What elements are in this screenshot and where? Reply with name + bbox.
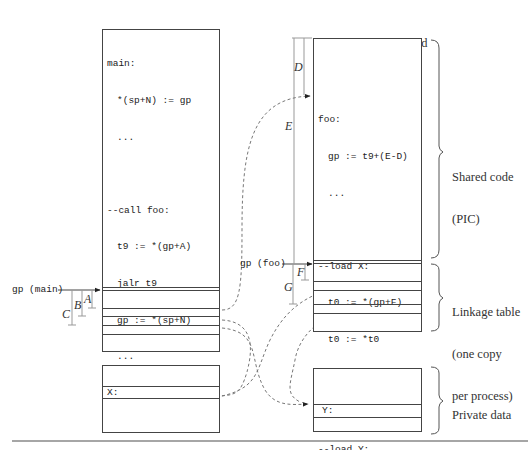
lib-data-box <box>313 368 422 432</box>
main-data-box <box>102 365 220 433</box>
gp-main-label: gp (main) <box>12 284 63 295</box>
lib-linkage-row <box>313 304 422 305</box>
main-linkage-row <box>102 308 220 309</box>
offset-label-g: G <box>284 280 293 295</box>
data-label-y: Y: <box>322 405 333 416</box>
main-linkage-divider <box>102 287 220 288</box>
lib-data-row <box>313 417 422 418</box>
brace-label-shared-code: Shared code (PIC) <box>452 142 513 240</box>
main-data-row <box>102 398 220 399</box>
code-line: ​ <box>107 168 191 180</box>
code-line: foo: <box>318 114 408 126</box>
main-linkage-row <box>102 334 220 335</box>
code-line: --call foo: <box>107 205 191 217</box>
offset-label-c: C <box>62 307 70 322</box>
lib-linkage-row <box>313 290 422 291</box>
code-line: *(sp+N) := gp <box>107 95 191 107</box>
main-linkage-row <box>102 316 220 317</box>
data-label-x: X: <box>107 387 118 398</box>
code-line: main: <box>107 58 191 70</box>
code-line: ... <box>107 132 191 144</box>
offset-label-e: E <box>285 119 292 134</box>
main-linkage-row <box>102 325 220 326</box>
code-line: gp := t9+(E-D) <box>318 151 408 163</box>
main-data-row <box>102 386 220 387</box>
diagram-connectors <box>0 0 528 450</box>
brace-label-line: (PIC) <box>452 212 513 226</box>
offset-label-b: B <box>74 298 81 313</box>
offset-label-d: D <box>294 60 303 75</box>
lib-linkage-divider <box>313 260 422 261</box>
brace-label-line: (one copy <box>452 347 520 361</box>
code-line: jalr t9 <box>107 278 191 290</box>
lib-linkage-divider <box>313 263 422 264</box>
code-line: t0 := *t0 <box>318 334 408 346</box>
offset-label-f: F <box>297 265 304 280</box>
code-line: ... <box>318 188 408 200</box>
main-linkage-divider <box>102 290 220 291</box>
code-line: --load Y: <box>318 444 408 450</box>
code-line: t9 := *(gp+A) <box>107 241 191 253</box>
brace-label-line: Linkage table <box>452 305 520 319</box>
brace-label-line: Private data <box>452 408 513 422</box>
code-line: ... <box>107 351 191 363</box>
offset-label-a: A <box>84 292 91 307</box>
code-line: ​ <box>318 224 408 236</box>
brace-label-private-data: Private data (one copy per process) <box>452 380 513 450</box>
lib-linkage-row <box>313 313 422 314</box>
brace-label-line: Shared code <box>452 170 513 184</box>
gp-foo-label: gp (foo) <box>240 258 286 269</box>
lib-linkage-row <box>313 281 422 282</box>
